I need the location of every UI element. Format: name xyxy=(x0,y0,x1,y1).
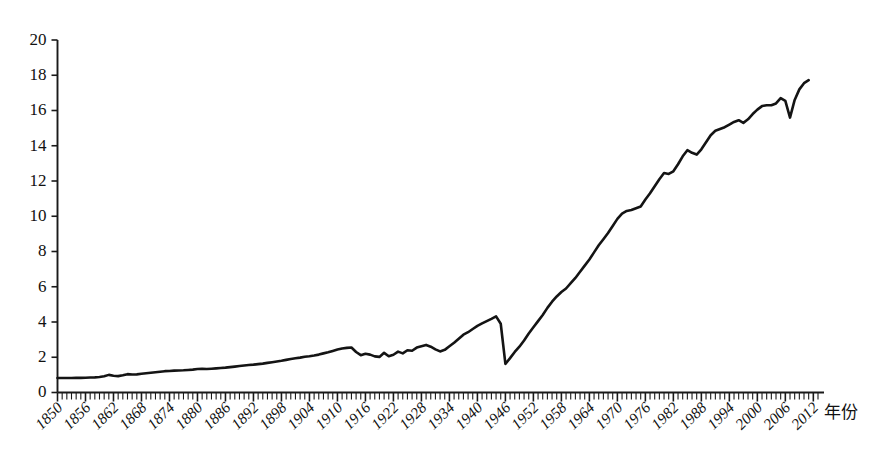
x-tick-label: 1904 xyxy=(284,398,318,432)
x-tick-label: 1850 xyxy=(32,398,66,432)
x-tick-label: 1874 xyxy=(144,398,178,432)
x-tick-label: 1940 xyxy=(452,398,486,432)
y-tick-label: 18 xyxy=(30,65,47,84)
y-tick-label: 12 xyxy=(30,171,47,190)
x-tick-label: 2006 xyxy=(760,398,794,432)
x-tick-label: 1916 xyxy=(340,398,374,432)
y-tick-label: 14 xyxy=(30,136,48,155)
x-axis-ticks xyxy=(58,393,819,402)
x-tick-label: 2000 xyxy=(732,398,766,432)
x-tick-label: 1988 xyxy=(676,398,710,432)
x-tick-label: 1922 xyxy=(368,398,402,432)
y-axis-labels: 02468101214161820 xyxy=(30,30,48,402)
x-tick-label: 1910 xyxy=(312,398,346,432)
x-tick-label: 1892 xyxy=(228,398,262,432)
x-tick-label: 1964 xyxy=(564,398,598,432)
chart-container: 02468101214161820 1850185618621868187418… xyxy=(0,0,882,468)
x-tick-label: 1856 xyxy=(60,398,94,432)
x-tick-label: 1958 xyxy=(536,398,570,432)
x-axis-title: 年份 xyxy=(824,403,858,422)
x-tick-label: 1862 xyxy=(88,398,122,432)
x-tick-label: 1898 xyxy=(256,398,290,432)
x-tick-label: 1994 xyxy=(704,398,738,432)
line-chart: 02468101214161820 1850185618621868187418… xyxy=(0,0,882,468)
data-series-line xyxy=(58,80,809,378)
x-tick-label: 1970 xyxy=(592,398,626,432)
y-tick-label: 4 xyxy=(38,312,47,331)
y-tick-label: 6 xyxy=(38,277,47,296)
x-axis-labels: 1850185618621868187418801886189218981904… xyxy=(32,398,822,432)
x-tick-label: 1952 xyxy=(508,398,542,432)
y-tick-label: 0 xyxy=(38,382,47,401)
x-tick-label: 1928 xyxy=(396,398,430,432)
x-tick-label: 1880 xyxy=(172,398,206,432)
x-tick-label: 1946 xyxy=(480,398,514,432)
y-tick-label: 16 xyxy=(30,100,47,119)
x-tick-label: 1982 xyxy=(648,398,682,432)
x-tick-label: 1976 xyxy=(620,398,654,432)
x-tick-label: 1886 xyxy=(200,398,234,432)
x-tick-label: 1934 xyxy=(424,398,458,432)
y-tick-label: 2 xyxy=(38,347,47,366)
y-tick-label: 10 xyxy=(30,206,47,225)
y-tick-label: 20 xyxy=(30,30,47,49)
y-tick-label: 8 xyxy=(38,241,47,260)
x-tick-label: 2012 xyxy=(788,398,822,432)
x-tick-label: 1868 xyxy=(116,398,150,432)
